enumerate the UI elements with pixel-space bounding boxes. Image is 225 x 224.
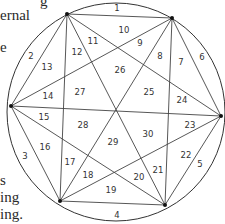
- region-label-10: 10: [119, 25, 130, 35]
- region-label-24: 24: [177, 95, 188, 105]
- region-label-28: 28: [78, 120, 89, 130]
- region-label-19: 19: [106, 185, 117, 195]
- region-label-15: 15: [39, 112, 50, 122]
- region-label-18: 18: [83, 170, 94, 180]
- vertex-dot-bottom-left: [58, 199, 62, 203]
- hexagon-diagonal: [60, 14, 67, 201]
- region-label-17: 17: [65, 157, 76, 167]
- hexagon-edges-and-diagonals: [11, 14, 221, 205]
- region-label-1: 1: [114, 3, 119, 13]
- hexagon-edge: [60, 201, 165, 205]
- region-label-26: 26: [115, 65, 126, 75]
- vertex-dot-top-left: [65, 12, 69, 16]
- vertex-dot-right: [219, 114, 223, 118]
- region-label-11: 11: [88, 36, 99, 46]
- region-label-16: 16: [40, 142, 51, 152]
- hexagon-diagonal: [165, 18, 172, 205]
- region-label-29: 29: [108, 137, 119, 147]
- region-label-13: 13: [42, 62, 53, 72]
- region-label-8: 8: [157, 51, 162, 61]
- hexagon-edge: [11, 106, 60, 201]
- region-label-7: 7: [178, 57, 183, 67]
- region-label-5: 5: [197, 159, 202, 169]
- region-label-14: 14: [43, 91, 54, 101]
- region-label-25: 25: [144, 87, 155, 97]
- hexagon-circle-diagram: 1234567891011121314151617181920212223242…: [0, 0, 225, 224]
- region-label-6: 6: [199, 52, 204, 62]
- region-label-21: 21: [153, 165, 164, 175]
- region-label-20: 20: [134, 172, 145, 182]
- region-label-12: 12: [72, 47, 83, 57]
- vertex-dot-bottom-right: [163, 203, 167, 207]
- region-label-30: 30: [143, 129, 154, 139]
- hexagon-diagonal: [67, 14, 221, 116]
- region-label-2: 2: [28, 51, 33, 61]
- hexagon-edge: [11, 14, 67, 106]
- vertex-dot-top-right: [170, 16, 174, 20]
- region-label-4: 4: [114, 210, 119, 220]
- region-label-27: 27: [75, 87, 86, 97]
- region-label-9: 9: [137, 38, 142, 48]
- region-label-3: 3: [22, 151, 27, 161]
- region-label-23: 23: [185, 120, 196, 130]
- vertex-dot-left: [9, 104, 13, 108]
- hexagon-edge: [67, 14, 172, 18]
- region-label-22: 22: [181, 150, 192, 160]
